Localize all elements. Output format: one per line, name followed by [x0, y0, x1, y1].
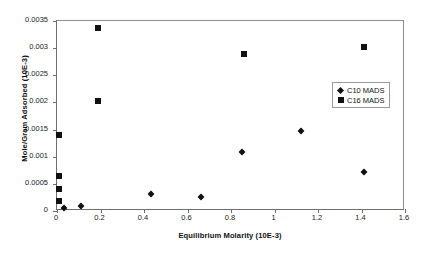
legend-label: C16 MADS — [347, 96, 385, 105]
x-tick — [275, 209, 276, 213]
x-tick — [188, 209, 189, 213]
x-tick — [318, 209, 319, 213]
legend-item-c16[interactable]: C16 MADS — [336, 95, 385, 105]
y-tick — [53, 102, 57, 103]
x-tick — [362, 209, 363, 213]
y-axis-title: Mole/Gram Adsorbed (10E-3) — [20, 29, 29, 189]
x-tick — [57, 209, 58, 213]
x-tick-label: 0.2 — [94, 213, 104, 222]
x-tick — [231, 209, 232, 213]
data-point-c16 — [56, 198, 62, 204]
data-point-c16 — [56, 186, 62, 192]
x-tick-label: 0 — [54, 213, 58, 222]
x-tick-label: 1.6 — [399, 213, 409, 222]
data-point-c10 — [197, 193, 204, 200]
legend-item-c10[interactable]: C10 MADS — [336, 85, 385, 95]
data-point-c16 — [56, 132, 62, 138]
x-tick-label: 1.2 — [312, 213, 322, 222]
x-axis-title: Equilibrium Molarity (10E-3) — [56, 231, 404, 240]
y-tick — [53, 184, 57, 185]
plot-area — [56, 20, 404, 210]
x-tick-label: 0.8 — [225, 213, 235, 222]
data-point-c16 — [95, 98, 101, 104]
y-tick — [53, 21, 57, 22]
data-point-c16 — [241, 51, 247, 57]
data-point-c10 — [360, 168, 367, 175]
scatter-chart: 00.00050.0010.00150.0020.00250.0030.0035… — [0, 0, 430, 261]
square-marker-icon — [336, 96, 345, 105]
data-point-c10 — [297, 128, 304, 135]
x-tick-label: 1 — [271, 213, 275, 222]
y-tick — [53, 48, 57, 49]
y-tick — [53, 157, 57, 158]
x-tick — [405, 209, 406, 213]
y-tick — [53, 75, 57, 76]
data-point-c16 — [361, 44, 367, 50]
x-tick — [101, 209, 102, 213]
legend-label: C10 MADS — [347, 86, 385, 95]
x-tick — [144, 209, 145, 213]
data-point-c10 — [77, 202, 84, 209]
chart-legend: C10 MADS C16 MADS — [332, 82, 390, 108]
data-point-c16 — [56, 173, 62, 179]
data-point-c16 — [95, 25, 101, 31]
y-tick — [53, 130, 57, 131]
x-tick-label: 1.4 — [355, 213, 365, 222]
x-tick-label: 0.6 — [181, 213, 191, 222]
diamond-marker-icon — [336, 86, 345, 95]
data-point-c10 — [238, 149, 245, 156]
x-tick-label: 0.4 — [138, 213, 148, 222]
data-point-c10 — [147, 190, 154, 197]
